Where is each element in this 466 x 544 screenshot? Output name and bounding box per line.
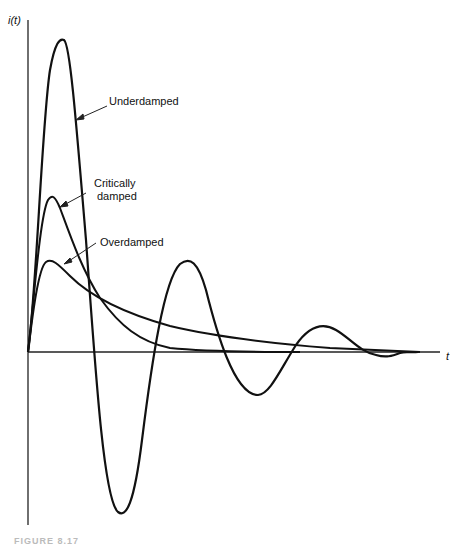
arrowhead: [60, 201, 68, 207]
critically-damped-label-1: Critically: [94, 177, 136, 190]
response-curves-plot: [0, 0, 466, 544]
overdamped-label: Overdamped: [100, 236, 164, 249]
arrowhead: [64, 258, 72, 264]
underdamped-curve: [28, 40, 418, 514]
figure-caption: FIGURE 8.17: [14, 536, 79, 544]
y-axis-label: i(t): [8, 14, 21, 27]
x-axis-label: t: [446, 350, 449, 363]
underdamped-label: Underdamped: [109, 95, 179, 108]
critically-damped-label-2: damped: [97, 190, 137, 203]
arrowhead: [76, 114, 84, 120]
